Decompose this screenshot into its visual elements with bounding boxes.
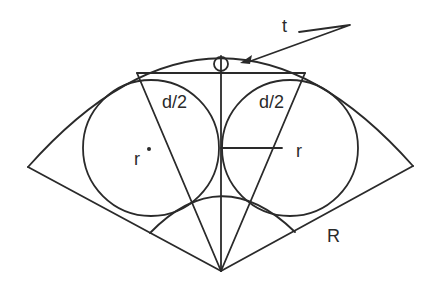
label-r-right: r xyxy=(296,141,302,161)
sector-circles-diagram: t d/2 d/2 r r R xyxy=(0,0,440,290)
label-R: R xyxy=(327,226,340,246)
label-d-half-left: d/2 xyxy=(162,92,187,112)
t-leader-line xyxy=(248,25,350,62)
sector-left-edge xyxy=(28,167,221,271)
left-circle xyxy=(83,80,219,216)
label-d-half-right: d/2 xyxy=(259,92,284,112)
label-r-left: r xyxy=(134,149,140,169)
sector-right-edge xyxy=(221,166,413,271)
label-t: t xyxy=(282,16,287,36)
left-circle-center-dot xyxy=(147,147,151,151)
